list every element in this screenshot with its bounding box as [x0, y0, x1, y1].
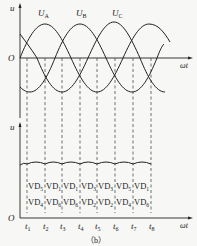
time-label-t7: t7 — [131, 222, 137, 232]
time-label-t1: t1 — [25, 222, 31, 232]
upper-origin-label: O — [8, 54, 15, 63]
diode-top-2: VD1 — [46, 182, 61, 193]
time-label-t2: t2 — [43, 222, 49, 232]
upper-x-label: ωt — [180, 62, 188, 70]
diode-bottom-5: VD2 — [98, 198, 113, 209]
diode-top-6: VD5 — [116, 182, 131, 193]
diode-top-7: VD1 — [134, 182, 149, 193]
diode-bottom-3: VD6 — [63, 198, 78, 209]
upper-x-arrow-icon — [188, 57, 193, 60]
lower-x-label: ωt — [180, 222, 188, 230]
lower-origin-label: O — [8, 214, 15, 223]
lower-y-arrow-icon — [19, 122, 22, 127]
diode-bottom-6: VD4 — [116, 198, 131, 209]
diode-top-1: VD5 — [28, 182, 43, 193]
rectified-output-wave — [20, 162, 151, 165]
phase-a-label: UA — [38, 9, 49, 19]
time-label-t6: t6 — [113, 222, 119, 232]
time-label-t4: t4 — [78, 222, 84, 232]
diode-top-3: VD1 — [63, 182, 78, 193]
time-label-t3: t3 — [60, 222, 66, 232]
waveform-diagram — [0, 0, 197, 246]
figure-caption: （b） — [86, 234, 106, 245]
phase-b-label: UB — [76, 9, 87, 19]
phase-c-label: UC — [112, 9, 123, 19]
lower-x-arrow-icon — [188, 217, 193, 220]
diode-bottom-4: VD2 — [81, 198, 96, 209]
time-label-t8: t8 — [149, 222, 155, 232]
diode-top-4: VD3 — [81, 182, 96, 193]
diode-bottom-2: VD6 — [46, 198, 61, 209]
diode-bottom-1: VD4 — [28, 198, 43, 209]
lower-y-label: u — [10, 123, 15, 132]
time-label-t5: t5 — [95, 222, 101, 232]
diode-top-5: VD3 — [98, 182, 113, 193]
diode-bottom-7: VD6 — [134, 198, 149, 209]
upper-y-arrow-icon — [19, 3, 22, 8]
upper-y-label: u — [10, 4, 15, 13]
